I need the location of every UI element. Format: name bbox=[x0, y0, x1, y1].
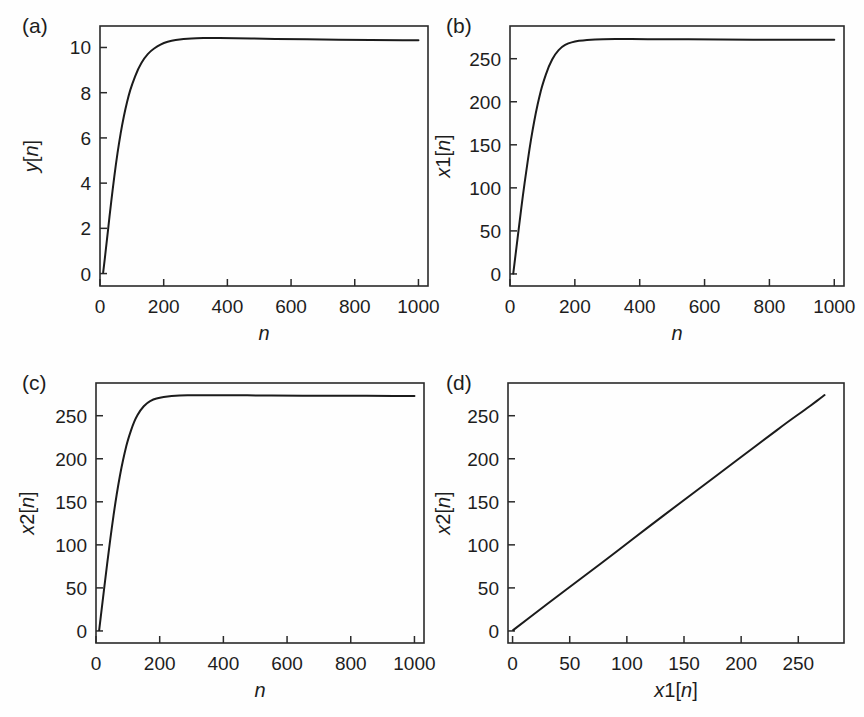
panel-a-ytick-label: 8 bbox=[80, 83, 91, 104]
panel-b-xtick-label: 400 bbox=[624, 296, 656, 317]
panel-a-xtick-label: 200 bbox=[148, 296, 180, 317]
panel-c-letter: (c) bbox=[22, 371, 47, 395]
panel-b-xlabel: n bbox=[671, 322, 682, 344]
panel-c-xtick-label: 200 bbox=[144, 653, 176, 674]
panel-c: (c) 02004006008001000050100150200250x2[n… bbox=[0, 357, 432, 717]
panel-a-xlabel-var: n bbox=[258, 322, 269, 344]
panel-c-ytick-label: 100 bbox=[55, 535, 87, 556]
panel-d-xtick-label: 0 bbox=[507, 653, 518, 674]
panel-d-xlabel-sub: 1 bbox=[664, 679, 675, 701]
panel-d-xtick-label: 150 bbox=[668, 653, 700, 674]
panel-c-ytick-label: 50 bbox=[66, 578, 87, 599]
panel-c-xtick-label: 1000 bbox=[393, 653, 435, 674]
panel-a-ytick-label: 4 bbox=[80, 173, 91, 194]
panel-a-xtick-label: 800 bbox=[339, 296, 371, 317]
panel-d-ylabel: x2[n] bbox=[432, 491, 454, 535]
panel-b: (b) 02004006008001000050100150200250x1[n… bbox=[432, 0, 864, 357]
panel-d-plot: 050100150200250050100150200250x2[n]x1[n] bbox=[432, 357, 864, 717]
panel-d-xtick-label: 100 bbox=[611, 653, 643, 674]
panel-d-letter: (d) bbox=[446, 371, 472, 395]
panel-c-ylabel-index: n bbox=[16, 497, 38, 508]
panel-a-xlabel: n bbox=[258, 322, 269, 344]
panel-c-xtick-label: 800 bbox=[335, 653, 367, 674]
panel-d-xlabel-index: n bbox=[681, 679, 692, 701]
panel-c-ytick-label: 0 bbox=[76, 621, 87, 642]
panel-d-ylabel-index: n bbox=[432, 497, 454, 508]
panel-b-ytick-label: 100 bbox=[469, 178, 501, 199]
panel-a-axes-frame bbox=[100, 26, 428, 286]
panel-a-plot: 020040060080010000246810y[n]n bbox=[0, 0, 432, 357]
panel-d-ytick-label: 100 bbox=[467, 535, 499, 556]
panel-c-ylabel-bracket-close: ] bbox=[16, 491, 38, 497]
panel-c-axes-frame bbox=[96, 383, 424, 643]
panel-a-data-curve bbox=[103, 38, 418, 272]
panel-d-ytick-label: 50 bbox=[478, 578, 499, 599]
figure-container: (a) 020040060080010000246810y[n]n (b) 02… bbox=[0, 0, 864, 717]
panel-d-xtick-label: 200 bbox=[725, 653, 757, 674]
panel-d-ylabel-sub: 2 bbox=[432, 514, 454, 525]
panel-a-ylabel-bracket-close: ] bbox=[20, 140, 42, 146]
panel-a-letter: (a) bbox=[22, 14, 48, 38]
panel-d-ytick-label: 150 bbox=[467, 492, 499, 513]
panel-c-ylabel: x2[n] bbox=[16, 491, 38, 535]
panel-b-ylabel-bracket-close: ] bbox=[432, 134, 454, 140]
panel-a-ylabel-index: n bbox=[20, 145, 42, 156]
panel-b-ytick-label: 0 bbox=[490, 264, 501, 285]
panel-d-xtick-label: 50 bbox=[559, 653, 580, 674]
panel-c-data-curve bbox=[99, 395, 414, 630]
panel-b-xlabel-var: n bbox=[671, 322, 682, 344]
panel-b-xtick-label: 600 bbox=[689, 296, 721, 317]
panel-d-ylabel-bracket-close: ] bbox=[432, 491, 454, 497]
panel-b-ytick-label: 200 bbox=[469, 92, 501, 113]
panel-c-xtick-label: 400 bbox=[208, 653, 240, 674]
panel-b-letter: (b) bbox=[446, 14, 472, 38]
panel-a: (a) 020040060080010000246810y[n]n bbox=[0, 0, 432, 357]
panel-a-ytick-label: 0 bbox=[80, 264, 91, 285]
panel-b-xtick-label: 200 bbox=[559, 296, 591, 317]
panel-c-xtick-label: 0 bbox=[91, 653, 102, 674]
panel-c-xtick-label: 600 bbox=[271, 653, 303, 674]
panel-a-ytick-label: 2 bbox=[80, 218, 91, 239]
panel-a-ytick-label: 10 bbox=[70, 37, 91, 58]
panel-c-ylabel-sub: 2 bbox=[16, 514, 38, 525]
panel-b-xtick-label: 1000 bbox=[813, 296, 855, 317]
panel-b-data-curve bbox=[513, 39, 834, 273]
panel-d: (d) 050100150200250050100150200250x2[n]x… bbox=[432, 357, 864, 717]
panel-b-ylabel-sub: 1 bbox=[432, 157, 454, 168]
panel-b-axes-frame bbox=[510, 26, 844, 286]
panel-b-ylabel: x1[n] bbox=[432, 134, 454, 178]
panel-c-ytick-label: 250 bbox=[55, 406, 87, 427]
panel-d-axes-frame bbox=[508, 383, 844, 643]
panel-d-ytick-label: 250 bbox=[467, 406, 499, 427]
panel-b-plot: 02004006008001000050100150200250x1[n]n bbox=[432, 0, 864, 357]
panel-d-ytick-label: 200 bbox=[467, 449, 499, 470]
panel-c-xlabel: n bbox=[254, 679, 265, 701]
panel-b-ytick-label: 250 bbox=[469, 49, 501, 70]
panel-a-xtick-label: 400 bbox=[212, 296, 244, 317]
panel-c-ytick-label: 150 bbox=[55, 492, 87, 513]
panel-b-ytick-label: 50 bbox=[480, 221, 501, 242]
panel-a-xtick-label: 600 bbox=[275, 296, 307, 317]
panel-c-xlabel-var: n bbox=[254, 679, 265, 701]
panel-b-ytick-label: 150 bbox=[469, 135, 501, 156]
panel-d-xlabel-bracket-close: ] bbox=[692, 679, 698, 701]
panel-c-plot: 02004006008001000050100150200250x2[n]n bbox=[0, 357, 432, 717]
panel-a-ylabel: y[n] bbox=[20, 140, 42, 174]
panel-d-xlabel: x1[n] bbox=[653, 679, 697, 701]
panel-a-xtick-label: 0 bbox=[95, 296, 106, 317]
panel-b-ylabel-index: n bbox=[432, 140, 454, 151]
panel-a-ytick-label: 6 bbox=[80, 128, 91, 149]
panel-d-xtick-label: 250 bbox=[782, 653, 814, 674]
panel-b-xtick-label: 800 bbox=[754, 296, 786, 317]
panel-b-xtick-label: 0 bbox=[505, 296, 516, 317]
panel-c-ytick-label: 200 bbox=[55, 449, 87, 470]
panel-d-data-curve bbox=[513, 395, 824, 630]
panel-d-ytick-label: 0 bbox=[488, 621, 499, 642]
